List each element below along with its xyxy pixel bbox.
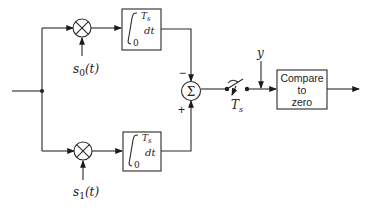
minus-sign: −	[179, 66, 186, 80]
multiplier-icon	[73, 19, 91, 37]
svg-text:y: y	[256, 46, 264, 60]
multiplier-icon	[74, 142, 92, 160]
lower-branch: s1(t) 0 Ts dt +	[42, 101, 191, 201]
correlation-receiver-diagram: s0(t) 0 Ts dt − s1(t)	[0, 0, 371, 208]
svg-text:0: 0	[133, 38, 139, 48]
svg-text:to: to	[298, 84, 307, 96]
plus-sign: +	[178, 103, 185, 117]
summation-icon: Σ	[182, 82, 201, 101]
sampling-switch-icon: Ts	[201, 79, 250, 114]
threshold-input: y	[256, 46, 264, 88]
integrator-block-lower: 0 Ts dt	[123, 132, 161, 171]
sampler-label: Ts	[231, 98, 243, 114]
svg-text:Compare: Compare	[280, 72, 323, 84]
integrator-block-upper: 0 Ts dt	[122, 9, 161, 50]
s0-label: s0(t)	[73, 62, 99, 78]
svg-text:dt: dt	[145, 147, 156, 158]
s1-label: s1(t)	[73, 185, 99, 201]
decision-block: Compare to zero	[277, 70, 327, 109]
svg-text:0: 0	[134, 160, 140, 170]
upper-branch: s0(t) 0 Ts dt −	[42, 9, 191, 81]
svg-text:Σ: Σ	[187, 85, 195, 99]
input-line	[12, 28, 44, 151]
svg-text:dt: dt	[144, 25, 155, 36]
svg-text:zero: zero	[292, 96, 313, 108]
